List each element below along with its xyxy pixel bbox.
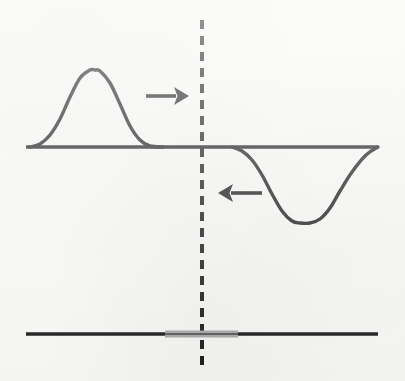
incident-pulse-curve	[30, 69, 163, 147]
reflected-direction-arrow-icon	[218, 184, 262, 202]
arrow-left-head	[218, 184, 233, 202]
incident-direction-arrow-icon	[146, 87, 189, 105]
diagram-canvas	[0, 0, 405, 381]
wave-pulse-diagram	[0, 0, 405, 381]
reflected-pulse-curve	[232, 147, 378, 223]
arrow-right-head	[174, 87, 189, 105]
